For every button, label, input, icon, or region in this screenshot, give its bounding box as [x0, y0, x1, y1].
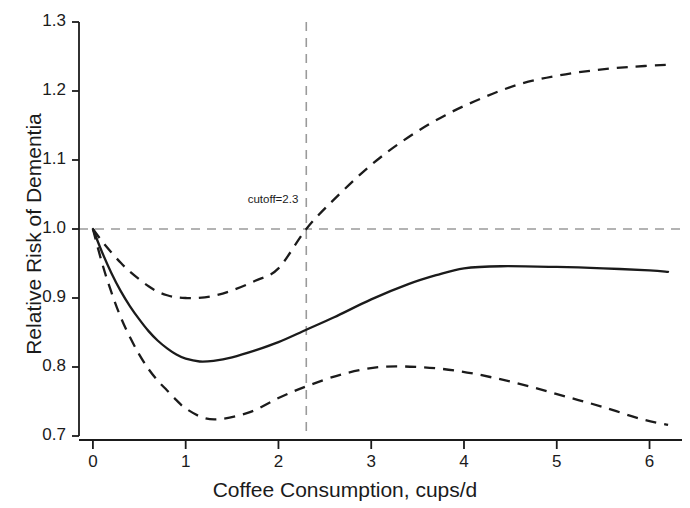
- lower-confidence-curve: [93, 229, 668, 425]
- x-axis-title: Coffee Consumption, cups/d: [0, 478, 690, 502]
- axis-spines: [79, 22, 682, 440]
- x-tick-label: 5: [542, 452, 572, 472]
- y-axis-ticks: [72, 22, 79, 436]
- x-tick-label: 6: [635, 452, 665, 472]
- x-tick-label: 4: [449, 452, 479, 472]
- x-tick-label: 2: [263, 452, 293, 472]
- x-axis-ticks: [93, 440, 650, 449]
- x-tick-label: 0: [78, 452, 108, 472]
- plot-canvas: [0, 0, 690, 508]
- cutoff-annotation-label: cutoff=2.3: [194, 193, 298, 205]
- relative-risk-curve: [93, 229, 668, 362]
- reference-lines: [79, 22, 682, 436]
- x-tick-label: 1: [171, 452, 201, 472]
- data-curves: [93, 65, 668, 425]
- upper-confidence-curve: [93, 65, 668, 298]
- x-tick-label: 3: [356, 452, 386, 472]
- chart-figure: 0.70.80.91.01.11.21.3 0123456 cutoff=2.3…: [0, 0, 690, 508]
- y-axis-title: Relative Risk of Dementia: [22, 14, 46, 454]
